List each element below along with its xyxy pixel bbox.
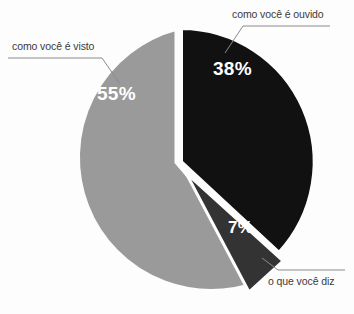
pie-value-ouvido: 38% bbox=[213, 58, 252, 80]
pie-label-ouvido: como você é ouvido bbox=[232, 8, 324, 20]
pie-value-visto: 55% bbox=[97, 83, 136, 105]
pie-value-diz: 7% bbox=[228, 218, 253, 238]
pie-label-visto: como você é visto bbox=[12, 40, 94, 52]
pie-chart: como você é ouvido como você é visto o q… bbox=[0, 0, 354, 314]
pie-label-diz: o que você diz bbox=[268, 275, 334, 287]
